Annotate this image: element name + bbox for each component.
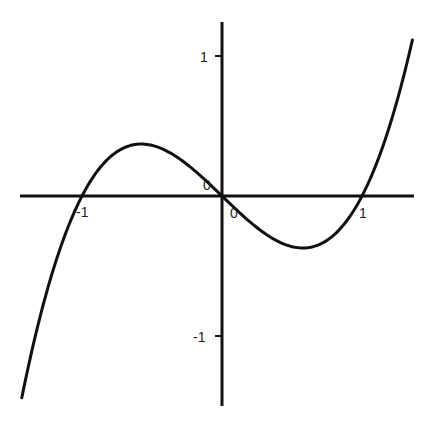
y-tick-label-1: 1 — [200, 49, 208, 65]
function-plot: -1 0 1 0 1 -1 — [0, 0, 431, 421]
origin-label: 0 — [203, 177, 211, 193]
x-tick-label-neg1: -1 — [76, 204, 89, 220]
y-tick-label-neg1: -1 — [193, 329, 206, 345]
x-tick-label-0: 0 — [230, 205, 238, 221]
x-tick-label-1: 1 — [359, 205, 367, 221]
